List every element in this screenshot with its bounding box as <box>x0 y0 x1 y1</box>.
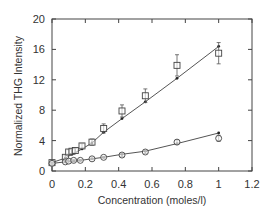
square-marker <box>174 62 180 68</box>
circle-marker <box>71 157 77 163</box>
square-marker <box>101 125 107 131</box>
y-tick-label: 8 <box>39 104 45 116</box>
fit-lines <box>51 45 220 165</box>
square-marker <box>119 108 125 114</box>
square-marker <box>142 93 148 99</box>
x-tick-labels: 00.20.40.60.811.2 <box>49 178 260 190</box>
fit-squares-line <box>52 46 219 162</box>
fit-dot <box>217 132 220 135</box>
x-tick-label: 0.8 <box>178 178 193 190</box>
fit-dot <box>176 77 179 80</box>
y-tick-label: 0 <box>39 165 45 177</box>
circle-marker <box>49 160 55 166</box>
square-marker <box>72 147 78 153</box>
x-tick-label: 1 <box>216 178 222 190</box>
circle-marker <box>77 157 83 163</box>
y-axis-label: Normalized THG Intensity <box>12 35 24 156</box>
y-tick-label: 20 <box>33 13 45 25</box>
x-axis-label: Concentration (moles/l) <box>98 194 207 206</box>
y-tick-label: 4 <box>39 135 45 147</box>
circle-marker <box>216 135 222 141</box>
data-points <box>49 43 222 167</box>
x-tick-label: 0.6 <box>144 178 159 190</box>
y-tick-label: 12 <box>33 74 45 86</box>
x-tick-label: 0.4 <box>111 178 126 190</box>
circle-marker <box>119 152 125 158</box>
fit-dot <box>121 117 124 120</box>
x-tick-label: 0 <box>49 178 55 190</box>
chart: 00.20.40.60.811.2 048121620 Concentratio… <box>0 0 276 209</box>
square-marker <box>89 139 95 145</box>
circle-marker <box>174 139 180 145</box>
circle-marker <box>142 149 148 155</box>
square-marker <box>216 50 222 56</box>
x-tick-label: 1.2 <box>244 178 259 190</box>
circle-marker <box>101 154 107 160</box>
y-tick-labels: 048121620 <box>33 13 45 177</box>
square-marker <box>79 143 85 149</box>
circle-marker <box>89 156 95 162</box>
x-tick-label: 0.2 <box>78 178 93 190</box>
y-tick-label: 16 <box>33 43 45 55</box>
